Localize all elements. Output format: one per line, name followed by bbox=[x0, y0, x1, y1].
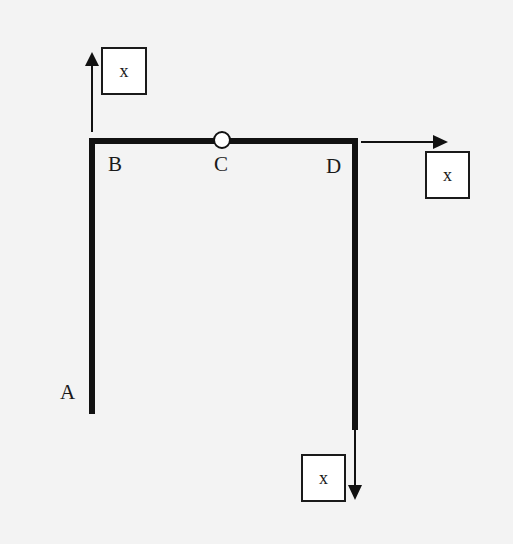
load-box-bottom: x bbox=[301, 454, 346, 502]
label-a: A bbox=[60, 382, 75, 403]
load-box-top-left: x bbox=[101, 47, 147, 95]
arrowhead-up-icon bbox=[85, 52, 99, 66]
frame-diagram bbox=[0, 0, 513, 544]
load-box-right: x bbox=[425, 151, 470, 199]
label-d: D bbox=[326, 156, 341, 177]
hinge-c bbox=[214, 132, 230, 148]
label-c: C bbox=[214, 154, 228, 175]
arrowhead-right-icon bbox=[433, 135, 448, 149]
arrowhead-down-icon bbox=[348, 485, 362, 500]
label-b: B bbox=[108, 154, 122, 175]
